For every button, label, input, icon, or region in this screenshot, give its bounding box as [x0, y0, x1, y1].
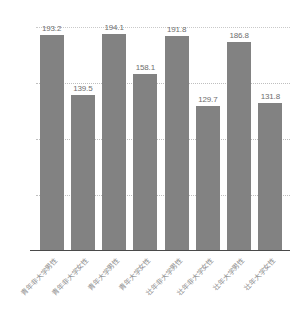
- bar-slot: 139.5: [67, 27, 98, 251]
- bar: 139.5: [71, 95, 95, 251]
- x-tick-label: 壮年大学男性: [210, 255, 246, 293]
- bar-slot: 158.1: [130, 27, 161, 251]
- bar-slot: 186.8: [224, 27, 255, 251]
- bar-slot: 194.1: [99, 27, 130, 251]
- bar: 129.7: [196, 106, 220, 251]
- bar-chart: 0.050.0100.0150.0200.0 193.2139.5194.115…: [0, 0, 297, 331]
- bar: 194.1: [102, 34, 126, 251]
- bar: 193.2: [40, 35, 64, 251]
- bar-value-label: 193.2: [42, 24, 61, 33]
- bar-value-label: 158.1: [136, 63, 155, 72]
- x-axis-tick-labels: 青年非大学男性青年非大学女性青年大学男性青年大学女性壮年非大学男性壮年非大学女性…: [36, 253, 286, 331]
- x-tick-label: 青年大学男性: [85, 255, 121, 293]
- bar: 131.8: [258, 103, 282, 251]
- x-axis-line: [30, 250, 290, 251]
- bar-value-label: 191.8: [167, 25, 186, 34]
- bar-value-label: 131.8: [261, 92, 280, 101]
- bar-value-label: 194.1: [105, 23, 124, 32]
- bar: 191.8: [165, 36, 189, 251]
- bar-value-label: 186.8: [230, 31, 249, 40]
- bar-slot: 131.8: [255, 27, 286, 251]
- bar: 158.1: [133, 74, 157, 251]
- plot-area: 0.050.0100.0150.0200.0 193.2139.5194.115…: [36, 27, 286, 251]
- bar-value-label: 139.5: [73, 84, 92, 93]
- x-tick-label: 壮年大学女性: [242, 255, 278, 293]
- bar-value-label: 129.7: [198, 95, 217, 104]
- bar-series: 193.2139.5194.1158.1191.8129.7186.8131.8: [36, 27, 286, 251]
- bar: 186.8: [227, 42, 251, 251]
- bar-slot: 193.2: [36, 27, 67, 251]
- bar-slot: 191.8: [161, 27, 192, 251]
- bar-slot: 129.7: [192, 27, 223, 251]
